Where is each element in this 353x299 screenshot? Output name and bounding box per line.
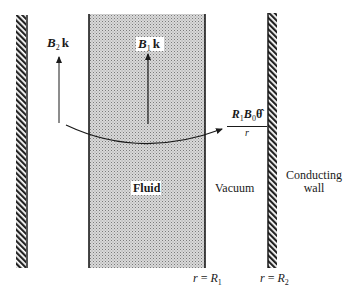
fluid-label: Fluid <box>133 181 160 196</box>
b1-vector-label: B1k <box>138 36 160 53</box>
right-conducting-wall <box>268 13 277 268</box>
r2-boundary-label: r = R2 <box>260 271 289 287</box>
left-conducting-wall <box>16 15 27 268</box>
vacuum-label: Vacuum <box>215 181 254 196</box>
r1-boundary-label: r = R1 <box>193 271 222 287</box>
b2-vector-label: B2k <box>47 35 69 52</box>
azimuthal-denominator: r <box>227 127 267 139</box>
azimuthal-field-label: R1B0θ̂ r <box>227 108 267 139</box>
conducting-wall-label: Conducting wall <box>286 169 342 195</box>
azimuthal-numerator: R1B0θ̂ <box>227 108 267 127</box>
